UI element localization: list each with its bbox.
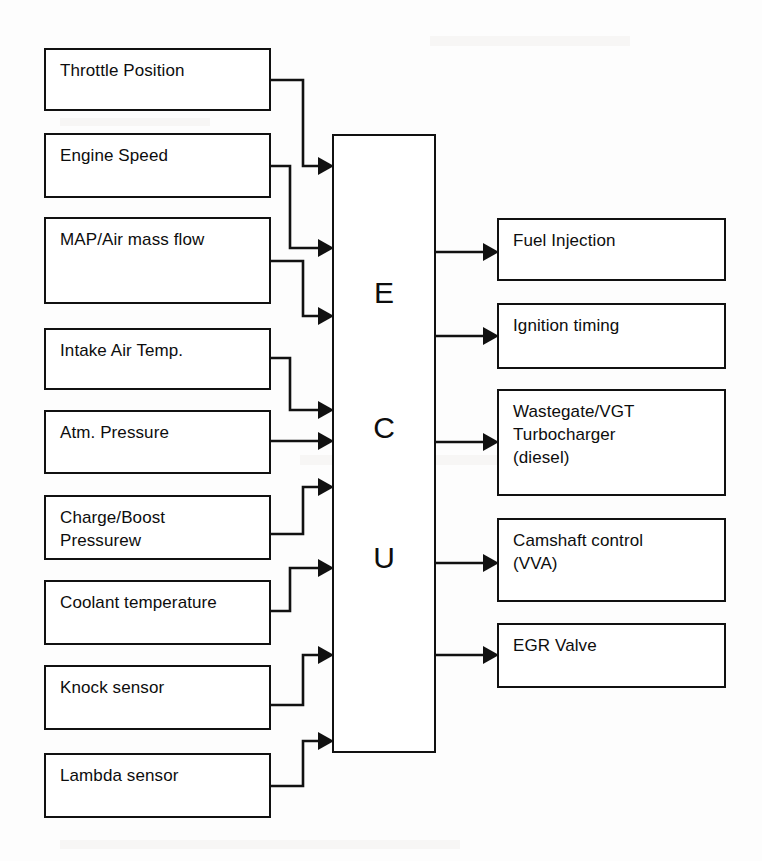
- output-box-egr-valve[interactable]: EGR Valve: [497, 623, 726, 688]
- wire-map-air-mass-flow: [271, 261, 320, 316]
- output-label-wastegate-vgt-turbocharger: Wastegate/VGT Turbocharger (diesel): [513, 400, 718, 469]
- output-box-camshaft-control[interactable]: Camshaft control (VVA): [497, 518, 726, 602]
- input-label-map-air-mass-flow: MAP/Air mass flow: [60, 228, 263, 251]
- input-box-charge-boost-pressure[interactable]: Charge/Boost Pressurew: [44, 495, 271, 560]
- wire-knock-sensor: [271, 655, 320, 705]
- input-box-throttle-position[interactable]: Throttle Position: [44, 48, 271, 111]
- wire-lambda-sensor: [271, 741, 320, 786]
- input-label-knock-sensor: Knock sensor: [60, 676, 263, 699]
- input-box-engine-speed[interactable]: Engine Speed: [44, 133, 271, 198]
- input-label-coolant-temperature: Coolant temperature: [60, 591, 263, 614]
- ecu-block[interactable]: E C U: [332, 134, 436, 753]
- ecu-letter-u: U: [334, 543, 434, 573]
- wire-coolant-temperature: [271, 568, 320, 611]
- input-label-atm-pressure: Atm. Pressure: [60, 421, 263, 444]
- input-box-knock-sensor[interactable]: Knock sensor: [44, 665, 271, 730]
- output-label-camshaft-control: Camshaft control (VVA): [513, 529, 718, 575]
- input-box-intake-air-temp[interactable]: Intake Air Temp.: [44, 328, 271, 390]
- output-label-ignition-timing: Ignition timing: [513, 314, 718, 337]
- input-box-atm-pressure[interactable]: Atm. Pressure: [44, 410, 271, 474]
- input-label-intake-air-temp: Intake Air Temp.: [60, 339, 263, 362]
- ecu-letter-c: C: [334, 413, 434, 443]
- wire-engine-speed: [271, 166, 320, 248]
- input-box-lambda-sensor[interactable]: Lambda sensor: [44, 753, 271, 818]
- input-label-charge-boost-pressure: Charge/Boost Pressurew: [60, 506, 263, 552]
- ecu-letter-e: E: [334, 278, 434, 308]
- output-box-wastegate-vgt-turbocharger[interactable]: Wastegate/VGT Turbocharger (diesel): [497, 389, 726, 496]
- output-label-egr-valve: EGR Valve: [513, 634, 718, 657]
- wire-charge-boost-pressure: [271, 487, 320, 534]
- output-box-fuel-injection[interactable]: Fuel Injection: [497, 218, 726, 281]
- input-box-map-air-mass-flow[interactable]: MAP/Air mass flow: [44, 217, 271, 304]
- output-box-ignition-timing[interactable]: Ignition timing: [497, 303, 726, 369]
- input-label-throttle-position: Throttle Position: [60, 59, 263, 82]
- input-label-lambda-sensor: Lambda sensor: [60, 764, 263, 787]
- input-box-coolant-temperature[interactable]: Coolant temperature: [44, 580, 271, 645]
- wire-throttle-position: [271, 80, 320, 166]
- ecu-block-diagram: Throttle Position Engine Speed MAP/Air m…: [0, 0, 762, 861]
- input-label-engine-speed: Engine Speed: [60, 144, 263, 167]
- wire-intake-air-temp: [271, 358, 320, 410]
- output-label-fuel-injection: Fuel Injection: [513, 229, 718, 252]
